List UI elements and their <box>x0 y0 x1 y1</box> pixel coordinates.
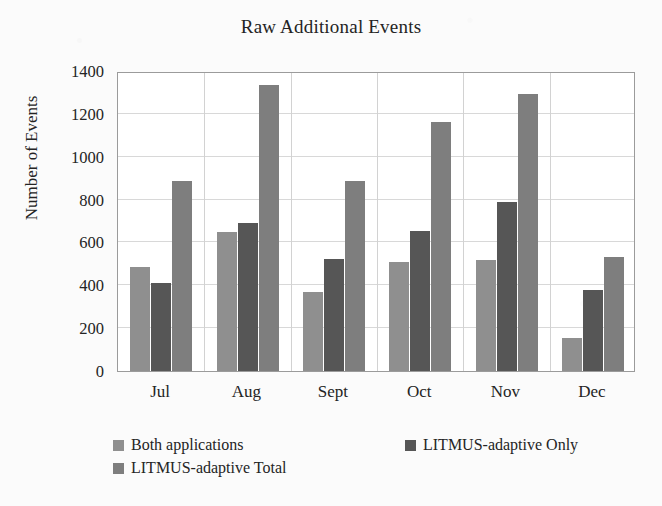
bar-dec-series-3[interactable] <box>604 257 624 371</box>
plot-area <box>117 72 635 372</box>
bar-nov-series-2[interactable] <box>497 202 517 371</box>
legend-item-both-applications[interactable]: Both applications <box>113 437 243 453</box>
legend-swatch-litmus-adaptive-only <box>405 440 416 451</box>
y-tick-label-400: 400 <box>0 276 104 296</box>
bar-oct-series-2[interactable] <box>410 231 430 371</box>
gridline-200 <box>118 327 634 328</box>
y-tick-label-200: 200 <box>0 319 104 339</box>
bar-aug-series-3[interactable] <box>259 85 279 371</box>
x-tick-label-aug: Aug <box>203 382 289 402</box>
bar-nov-series-3[interactable] <box>518 94 538 372</box>
bar-nov-series-1[interactable] <box>476 260 496 371</box>
chart-figure: Raw Additional Events Number of Events 0… <box>0 0 662 506</box>
bar-dec-series-1[interactable] <box>562 338 582 371</box>
bar-dec-series-2[interactable] <box>583 290 603 371</box>
category-separator-4 <box>463 73 464 371</box>
y-tick-label-1400: 1400 <box>0 62 104 82</box>
legend-swatch-litmus-adaptive-total <box>113 463 124 474</box>
chart-legend: Both applications LITMUS-adaptive Only L… <box>113 437 633 483</box>
x-tick-label-oct: Oct <box>376 382 462 402</box>
bar-oct-series-1[interactable] <box>389 262 409 371</box>
category-separator-2 <box>291 73 292 371</box>
legend-row-1: Both applications LITMUS-adaptive Only <box>113 437 633 460</box>
gridline-800 <box>118 199 634 200</box>
bar-oct-series-3[interactable] <box>431 122 451 371</box>
bar-aug-series-1[interactable] <box>217 232 237 371</box>
x-tick-label-sept: Sept <box>290 382 376 402</box>
gridline-1200 <box>118 113 634 114</box>
legend-label-litmus-adaptive-total: LITMUS-adaptive Total <box>131 460 286 476</box>
bar-jul-series-3[interactable] <box>172 181 192 371</box>
x-tick-label-nov: Nov <box>462 382 548 402</box>
y-tick-label-1000: 1000 <box>0 148 104 168</box>
legend-item-litmus-adaptive-total[interactable]: LITMUS-adaptive Total <box>113 460 286 476</box>
gridline-1000 <box>118 156 634 157</box>
category-separator-5 <box>550 73 551 371</box>
category-separator-1 <box>204 73 205 371</box>
y-tick-label-1200: 1200 <box>0 105 104 125</box>
bar-sept-series-3[interactable] <box>345 181 365 371</box>
y-tick-label-0: 0 <box>0 362 104 382</box>
gridline-600 <box>118 241 634 242</box>
bar-jul-series-2[interactable] <box>151 283 171 371</box>
x-tick-label-dec: Dec <box>549 382 635 402</box>
legend-swatch-both-applications <box>113 440 124 451</box>
category-separator-3 <box>377 73 378 371</box>
legend-label-litmus-adaptive-only: LITMUS-adaptive Only <box>423 437 578 453</box>
y-tick-label-600: 600 <box>0 233 104 253</box>
bar-sept-series-1[interactable] <box>303 292 323 371</box>
y-tick-label-800: 800 <box>0 191 104 211</box>
bar-sept-series-2[interactable] <box>324 259 344 372</box>
legend-item-litmus-adaptive-only[interactable]: LITMUS-adaptive Only <box>405 437 578 453</box>
bar-jul-series-1[interactable] <box>130 267 150 371</box>
gridline-400 <box>118 284 634 285</box>
bar-aug-series-2[interactable] <box>238 223 258 371</box>
legend-row-2: LITMUS-adaptive Total <box>113 460 633 483</box>
x-tick-label-jul: Jul <box>117 382 203 402</box>
legend-label-both-applications: Both applications <box>131 437 243 453</box>
